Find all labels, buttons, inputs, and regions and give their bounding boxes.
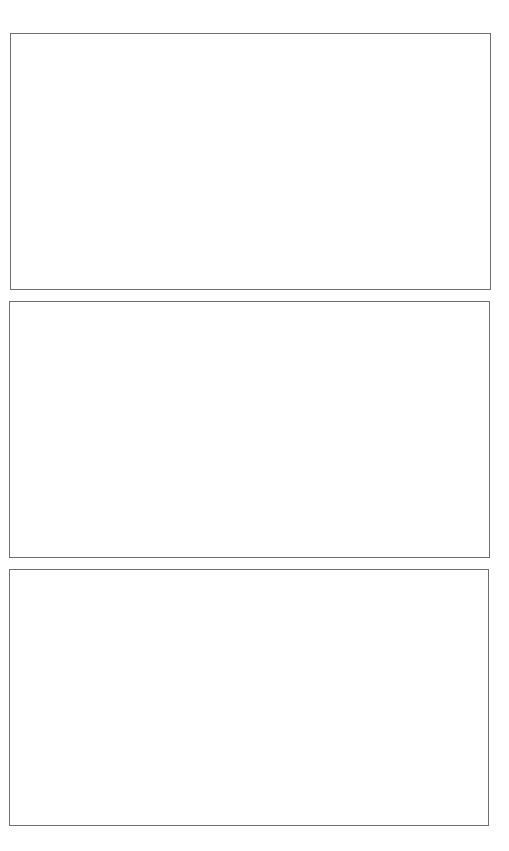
page: [0, 0, 509, 851]
empty-panel-1: [10, 33, 491, 290]
empty-panel-3: [9, 569, 489, 826]
empty-panel-2: [9, 301, 490, 558]
